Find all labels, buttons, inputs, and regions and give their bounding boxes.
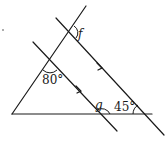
angle-label-45: 45° <box>114 100 135 114</box>
angle-label-f: f <box>77 27 85 41</box>
parallel-line-upper <box>56 18 164 135</box>
angle-label-g: g <box>95 98 103 112</box>
stray-dot <box>2 29 4 31</box>
angle-label-80: 80° <box>42 73 63 87</box>
left-transversal-line <box>12 6 86 114</box>
geometry-diagram: 80° f g 45° <box>0 0 166 143</box>
parallel-arrow-icon <box>97 63 102 70</box>
